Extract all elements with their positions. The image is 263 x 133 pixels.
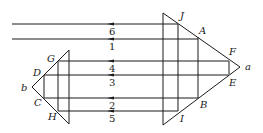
ray-label-6: 6 <box>109 26 115 37</box>
ray-label-4: 4 <box>109 63 115 74</box>
ray-label-2: 2 <box>109 100 115 111</box>
point-label-E: E <box>228 77 237 88</box>
point-label-G: G <box>47 53 55 64</box>
point-label-D: D <box>32 67 41 78</box>
diagram-canvas: 6 1 4 3 2 5 J A F a E B I G D b C H <box>0 0 263 133</box>
point-label-C: C <box>34 97 42 108</box>
ray-label-1: 1 <box>109 41 115 52</box>
ray-label-5: 5 <box>109 113 115 124</box>
point-label-B: B <box>199 99 207 110</box>
ray-diagram: 6 1 4 3 2 5 J A F a E B I G D b C H <box>0 0 263 133</box>
point-label-H: H <box>47 111 57 122</box>
point-label-a: a <box>245 61 251 72</box>
point-label-A: A <box>198 25 206 36</box>
point-label-I: I <box>179 113 185 124</box>
point-label-F: F <box>228 46 237 57</box>
point-label-J: J <box>178 10 185 21</box>
point-label-b: b <box>21 82 27 93</box>
ray-label-3: 3 <box>109 77 115 88</box>
